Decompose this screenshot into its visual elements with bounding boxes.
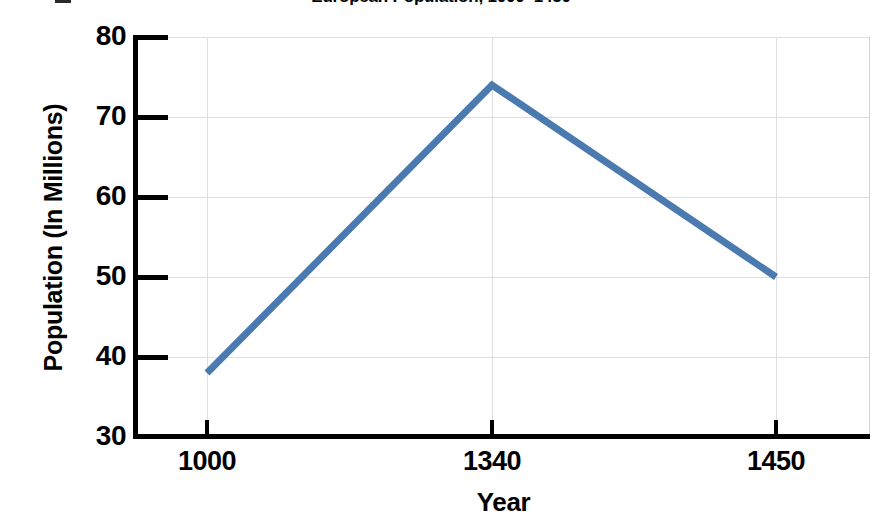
- plot-area: [137, 37, 870, 437]
- gridline-y-60: [137, 197, 870, 198]
- gridline-x-1450: [776, 37, 777, 437]
- x-tick-label-1450: 1450: [696, 446, 856, 477]
- x-axis-spine: [133, 434, 870, 439]
- y-tick-70: [137, 115, 168, 120]
- y-tick-50: [137, 275, 168, 280]
- x-tick-label-1340: 1340: [412, 446, 572, 477]
- gridline-y-40: [137, 357, 870, 358]
- x-tick-1000: [205, 420, 209, 439]
- gridline-y-50: [137, 277, 870, 278]
- gridline-y-70: [137, 117, 870, 118]
- y-axis-title: Population (In Millions): [39, 38, 68, 438]
- x-axis-title: Year: [137, 487, 870, 518]
- y-tick-80: [137, 35, 168, 40]
- y-tick-60: [137, 195, 168, 200]
- y-axis-spine: [133, 35, 138, 439]
- plot-right-border: [869, 37, 870, 437]
- x-tick-1450: [774, 420, 778, 439]
- x-tick-1340: [490, 420, 494, 439]
- chart-figure: European Population, 1000–1450 80 70 60 …: [0, 0, 882, 532]
- gridline-y-80: [137, 37, 870, 38]
- x-tick-label-1000: 1000: [127, 446, 287, 477]
- gridline-x-1340: [492, 37, 493, 437]
- chart-title: European Population, 1000–1450: [0, 0, 882, 7]
- y-tick-40: [137, 355, 168, 360]
- gridline-x-1000: [207, 37, 208, 437]
